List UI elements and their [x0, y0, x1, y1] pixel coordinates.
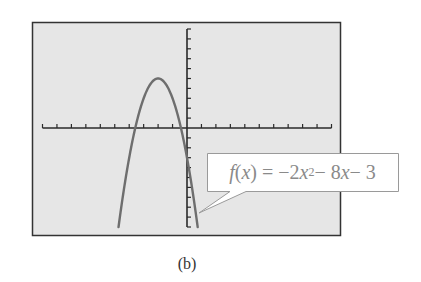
function-arg: x: [241, 161, 250, 184]
function-name: f: [229, 161, 235, 184]
equals-sign: =: [262, 161, 273, 184]
variable-x-2: x: [341, 161, 350, 184]
figure-caption: (b): [162, 255, 212, 273]
graphing-calculator-figure: f(x) = −2x2 − 8x − 3 (b): [0, 0, 421, 282]
constant-term: − 3: [350, 161, 376, 184]
linear-coefficient: − 8: [314, 161, 340, 184]
function-label: f(x) = −2x2 − 8x − 3: [207, 153, 398, 191]
plot-screen: [0, 0, 421, 282]
variable-x: x: [300, 161, 309, 184]
leading-coefficient: −2: [278, 161, 299, 184]
